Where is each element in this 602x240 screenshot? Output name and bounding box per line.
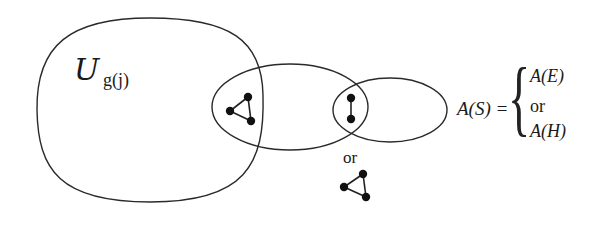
equation-case-3: A(H): [530, 121, 566, 142]
universe-label: U: [74, 52, 99, 87]
equation-case-2: or: [530, 96, 545, 117]
equation-case-3-text: A(H): [530, 121, 566, 141]
triangle-subgraph-bottom-icon: [340, 170, 370, 201]
equation-lhs: A(S) =: [457, 98, 508, 120]
curly-brace: {: [508, 56, 530, 140]
edge-subgraph-icon: [347, 94, 355, 123]
right-ellipse-outline: [333, 78, 447, 142]
universe-label-subscript: g(j): [103, 70, 129, 91]
equation-case-1: A(E): [530, 66, 564, 87]
or-label: or: [343, 148, 357, 168]
triangle-subgraph-left-icon: [226, 93, 255, 125]
equation-lhs-text: A(S) =: [457, 98, 508, 119]
equation-case-1-text: A(E): [530, 66, 564, 86]
